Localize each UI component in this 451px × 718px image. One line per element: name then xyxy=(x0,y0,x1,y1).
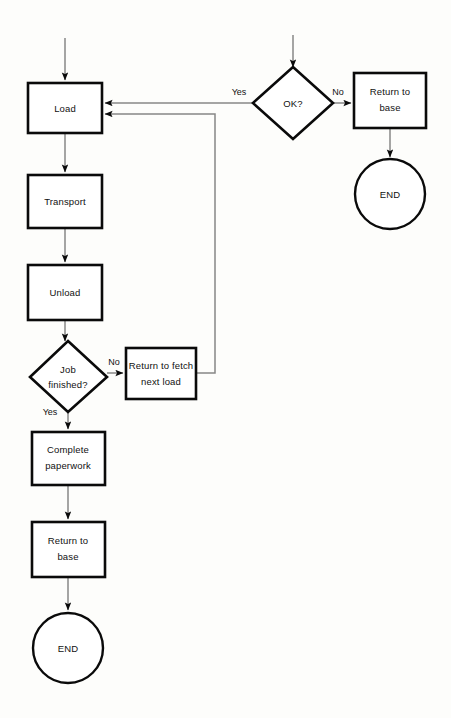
node-job-finished-label-line1: Job xyxy=(60,364,76,375)
node-return-fetch-label-line1: Return to fetch xyxy=(129,360,194,371)
node-return-base-top-shape xyxy=(354,73,426,128)
node-return-fetch[interactable]: Return to fetch next load xyxy=(126,348,196,399)
node-return-base-bottom-label-line2: base xyxy=(57,551,78,562)
node-complete-paperwork-label-line2: paperwork xyxy=(45,460,91,471)
node-transport[interactable]: Transport xyxy=(28,175,102,228)
node-job-finished[interactable]: Job finished? xyxy=(30,341,107,412)
node-end-top[interactable]: END xyxy=(355,159,425,229)
edge-label-job-yes: Yes xyxy=(43,407,58,417)
node-end-bottom-label: END xyxy=(58,643,79,654)
flowchart-canvas: Load Transport Unload Job finished? Retu… xyxy=(0,0,451,718)
edge-label-job-no: No xyxy=(108,357,120,367)
node-return-base-top-label-line2: base xyxy=(379,102,400,113)
flowchart-page: Load Transport Unload Job finished? Retu… xyxy=(0,0,451,718)
node-unload[interactable]: Unload xyxy=(28,265,102,320)
node-complete-paperwork[interactable]: Complete paperwork xyxy=(32,432,105,485)
node-return-fetch-shape xyxy=(126,348,196,399)
edge-label-ok-yes: Yes xyxy=(232,87,247,97)
node-return-base-bottom-shape xyxy=(32,522,105,577)
node-return-base-top[interactable]: Return to base xyxy=(354,73,426,128)
node-complete-paperwork-shape xyxy=(32,432,105,485)
connector-return-fetch-to-load xyxy=(105,114,215,373)
node-return-base-bottom-label-line1: Return to xyxy=(48,535,88,546)
node-unload-label: Unload xyxy=(49,287,80,298)
node-load[interactable]: Load xyxy=(28,83,102,133)
node-end-top-label: END xyxy=(380,189,401,200)
node-ok-decision[interactable]: OK? xyxy=(253,67,333,139)
node-ok-decision-label: OK? xyxy=(283,98,302,109)
node-job-finished-shape xyxy=(30,341,107,412)
edge-label-ok-no: No xyxy=(332,87,344,97)
node-return-base-bottom[interactable]: Return to base xyxy=(32,522,105,577)
node-job-finished-label-line2: finished? xyxy=(48,379,87,390)
node-return-fetch-label-line2: next load xyxy=(141,376,181,387)
node-transport-label: Transport xyxy=(44,196,86,207)
node-end-bottom[interactable]: END xyxy=(33,613,103,683)
node-load-label: Load xyxy=(54,103,76,114)
node-complete-paperwork-label-line1: Complete xyxy=(47,444,89,455)
node-return-base-top-label-line1: Return to xyxy=(370,86,410,97)
